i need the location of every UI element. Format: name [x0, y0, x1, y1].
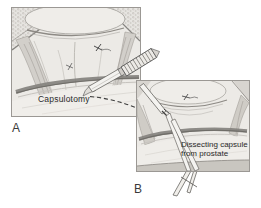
- figure-canvas: Capsulotomy: [0, 0, 261, 208]
- dissection-label: Dissecting capsule from prostate: [181, 141, 250, 158]
- panel-b-letter: B: [134, 182, 142, 196]
- surgical-panel-b: Dissecting capsule from prostate: [136, 80, 250, 172]
- surgical-panel-a: Capsulotomy: [11, 7, 141, 117]
- panel-a-letter: A: [12, 121, 20, 135]
- scissors-handles-icon: [173, 170, 197, 196]
- capsulotomy-label: Capsulotomy: [38, 94, 90, 104]
